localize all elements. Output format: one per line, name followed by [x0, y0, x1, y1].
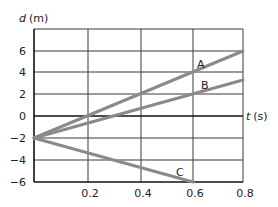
y-tick-labels: 6 4 2 0 −2 −4 −6: [10, 45, 26, 189]
svg-text:0.8: 0.8: [236, 187, 254, 200]
svg-text:−6: −6: [10, 176, 26, 189]
x-tick-labels: 0.2 0.4 0.6 0.8: [81, 187, 254, 200]
grid: [34, 29, 243, 182]
svg-text:−4: −4: [10, 154, 26, 167]
x-axis-title: t(s): [246, 110, 268, 123]
svg-text:0.4: 0.4: [134, 187, 152, 200]
position-time-chart: A B C d(m) t(s) 6 4 2 0 −2 −4 −6 0.2 0.4…: [0, 0, 278, 207]
svg-text:0: 0: [19, 110, 26, 123]
y-axis-title: d(m): [19, 12, 48, 25]
series-label-a: A: [197, 58, 205, 71]
series-label-c: C: [176, 166, 184, 179]
series-label-b: B: [201, 79, 209, 92]
svg-text:0.6: 0.6: [186, 187, 204, 200]
svg-text:0.2: 0.2: [81, 187, 99, 200]
svg-text:4: 4: [19, 66, 26, 79]
svg-text:2: 2: [19, 88, 26, 101]
line-b: [34, 80, 243, 138]
svg-text:6: 6: [19, 45, 26, 58]
axes: [34, 29, 243, 182]
svg-text:−2: −2: [10, 132, 26, 145]
